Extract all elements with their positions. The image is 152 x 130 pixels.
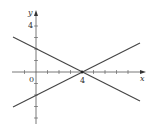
origin-label: 0: [29, 75, 34, 84]
x-tick-label-4: 4: [80, 76, 85, 85]
y-axis-arrow-icon: [34, 10, 38, 16]
y-axis-label: y: [27, 8, 33, 17]
decreasing-line: [13, 37, 140, 101]
y-tick-label-4: 4: [28, 21, 33, 30]
graph-canvas: y 4 0 4 x: [0, 0, 152, 130]
x-axis-label: x: [140, 74, 145, 83]
intersection-point: [81, 71, 84, 74]
